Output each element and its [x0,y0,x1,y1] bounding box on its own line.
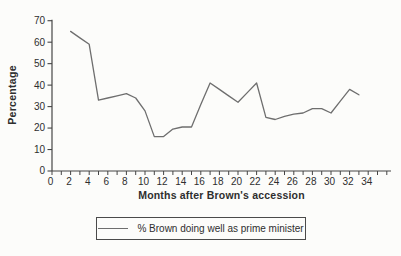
y-tick-label: 30 [34,101,46,112]
y-tick-label: 70 [34,15,46,26]
data-line [71,31,359,136]
legend-box: % Brown doing well as prime minister [96,217,306,240]
y-tick-label: 20 [34,122,46,133]
x-tick-label: 14 [175,176,187,187]
x-tick-label: 30 [324,176,336,187]
x-tick-label: 2 [66,176,72,187]
x-tick-label: 6 [104,176,110,187]
y-axis-title: Percentage [6,20,22,170]
x-tick-label: 16 [194,176,206,187]
x-tick-label: 4 [85,176,91,187]
legend-line-sample-icon [98,228,128,229]
x-tick-label: 12 [157,176,169,187]
y-tick-label: 40 [34,80,46,91]
x-tick-label: 0 [48,176,54,187]
x-tick-label: 24 [268,176,280,187]
x-tick-label: 20 [231,176,243,187]
x-tick-label: 10 [138,176,150,187]
x-tick-label: 8 [122,176,128,187]
x-tick-label: 28 [305,176,317,187]
x-tick-label: 26 [287,176,299,187]
x-axis-title: Months after Brown's accession [52,189,391,201]
y-tick-label: 60 [34,37,46,48]
x-tick-label: 34 [361,176,373,187]
brown-approval-chart: 0102030405060700246810121416182022242628… [0,0,401,256]
x-tick-label: 18 [212,176,224,187]
x-tick-label: 22 [250,176,262,187]
legend-label: % Brown doing well as prime minister [137,223,303,234]
y-tick-label: 0 [39,165,45,176]
y-tick-label: 50 [34,58,46,69]
x-tick-label: 32 [343,176,355,187]
y-tick-label: 10 [34,144,46,155]
chart-svg: 0102030405060700246810121416182022242628… [0,0,401,215]
